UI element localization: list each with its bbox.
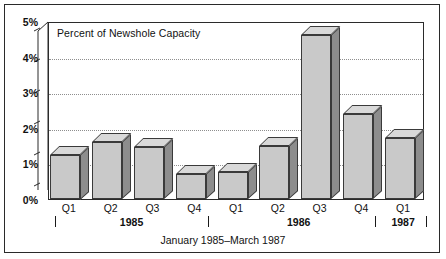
- bar-side-face: [289, 138, 298, 199]
- bar-q4-1985: [176, 165, 215, 199]
- bar-q3-1986: [301, 26, 340, 199]
- bar-q1-1986: [218, 163, 257, 199]
- y-tick-label-3pct: 3%: [23, 87, 38, 99]
- bar-side-face: [331, 27, 340, 199]
- y-axis-labels: 0%1%2%3%4%5%: [4, 22, 38, 200]
- y-tick-label-0pct: 0%: [23, 194, 38, 206]
- bar-side-face: [373, 105, 382, 199]
- bar-q2-1986: [259, 137, 298, 199]
- bar-front-face: [176, 174, 206, 199]
- group-bracket-tick: [426, 216, 427, 227]
- x-tick-label-1: Q2: [104, 202, 118, 214]
- bar-front-face: [343, 114, 373, 199]
- bar-side-face: [80, 146, 89, 199]
- x-tick-label-6: Q3: [313, 202, 327, 214]
- bar-side-face: [164, 139, 173, 199]
- y-tick-label-5pct: 5%: [23, 16, 38, 28]
- group-bracket-tick: [55, 216, 56, 227]
- bar-front-face: [92, 142, 122, 199]
- y-tick-label-2pct: 2%: [23, 123, 38, 135]
- bar-q2-1985: [92, 133, 131, 199]
- plot-title: Percent of Newshole Capacity: [57, 27, 200, 39]
- bar-front-face: [385, 138, 415, 199]
- x-tick-label-2: Q3: [145, 202, 159, 214]
- y-tick-label-4pct: 4%: [23, 52, 38, 64]
- y-tick-label-1pct: 1%: [23, 158, 38, 170]
- group-bracket-tick: [208, 216, 209, 227]
- x-tick-label-0: Q1: [62, 202, 76, 214]
- plot-area: Percent of Newshole Capacity: [48, 22, 424, 200]
- bar-side-face: [248, 164, 257, 199]
- bar-side-face: [415, 130, 424, 199]
- bar-front-face: [301, 35, 331, 199]
- bar-q3-1985: [134, 138, 173, 199]
- x-axis-group-labels: 198519861987: [20, 216, 430, 232]
- group-bracket-tick: [375, 216, 376, 227]
- bar-side-face: [122, 134, 131, 199]
- gridline-4pct: [49, 59, 423, 60]
- group-label-1985: 1985: [120, 216, 143, 228]
- bar-front-face: [134, 147, 164, 199]
- bar-q4-1986: [343, 105, 382, 199]
- bar-q1-1987: [385, 129, 424, 199]
- bar-front-face: [50, 155, 80, 200]
- group-label-1986: 1986: [287, 216, 310, 228]
- x-tick-label-4: Q1: [229, 202, 243, 214]
- bar-front-face: [218, 172, 248, 199]
- x-tick-label-3: Q4: [187, 202, 201, 214]
- bar-front-face: [259, 146, 289, 199]
- x-tick-label-8: Q1: [396, 202, 410, 214]
- chart-caption: January 1985–March 1987: [0, 234, 446, 246]
- x-tick-label-7: Q4: [354, 202, 368, 214]
- x-tick-label-5: Q2: [271, 202, 285, 214]
- bar-q1-1985: [50, 146, 89, 200]
- group-label-1987: 1987: [391, 216, 414, 228]
- figure-bar-chart: 0%1%2%3%4%5% Percent of Newshole Capacit…: [0, 0, 446, 259]
- gridline-3pct: [49, 94, 423, 95]
